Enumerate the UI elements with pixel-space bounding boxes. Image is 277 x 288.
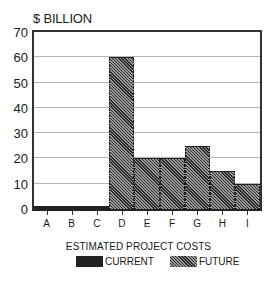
x-tick-label: G	[187, 218, 207, 229]
plot-area	[32, 30, 262, 211]
x-tick	[172, 211, 173, 215]
y-tick-label: 20	[0, 152, 28, 165]
x-tick	[147, 211, 148, 215]
y-tick-label: 40	[0, 102, 28, 115]
legend-label-current: CURRENT	[105, 256, 154, 267]
x-tick	[47, 211, 48, 215]
x-tick-label: F	[162, 218, 182, 229]
x-tick-label: C	[87, 218, 107, 229]
y-tick-label: 30	[0, 127, 28, 140]
x-tick-label: D	[112, 218, 132, 229]
legend-label-future: FUTURE	[199, 256, 240, 267]
bar-d	[109, 57, 134, 209]
gridline	[34, 82, 260, 83]
current-swatch-icon	[76, 256, 103, 267]
x-tick	[97, 211, 98, 215]
gridline	[34, 107, 260, 108]
legend-title: ESTIMATED PROJECT COSTS	[0, 241, 277, 252]
bar-i	[235, 184, 260, 209]
y-tick-label: 0	[0, 203, 28, 216]
y-axis-title: $ BILLION	[33, 11, 92, 26]
bar-h	[210, 171, 235, 209]
x-tick-label: A	[37, 218, 57, 229]
bar-b	[59, 206, 84, 209]
x-tick-label: E	[137, 218, 157, 229]
x-tick	[122, 211, 123, 215]
x-tick	[72, 211, 73, 215]
bar-g	[185, 146, 210, 209]
legend-item-current: CURRENT	[76, 256, 154, 267]
x-tick	[247, 211, 248, 215]
x-tick-label: I	[237, 218, 257, 229]
y-tick-label: 50	[0, 77, 28, 90]
bar-c	[84, 206, 109, 209]
y-tick-label: 10	[0, 178, 28, 191]
x-tick	[222, 211, 223, 215]
gridline	[34, 132, 260, 133]
gridline	[34, 56, 260, 57]
x-tick-label: B	[62, 218, 82, 229]
future-swatch-icon	[170, 256, 197, 267]
bar-a	[34, 206, 59, 209]
y-tick-label: 60	[0, 51, 28, 64]
legend: CURRENT FUTURE	[76, 256, 255, 267]
x-tick	[197, 211, 198, 215]
bar-e	[134, 158, 159, 209]
y-tick-label: 70	[0, 26, 28, 39]
bar-f	[160, 158, 185, 209]
legend-item-future: FUTURE	[170, 256, 240, 267]
x-tick-label: H	[212, 218, 232, 229]
